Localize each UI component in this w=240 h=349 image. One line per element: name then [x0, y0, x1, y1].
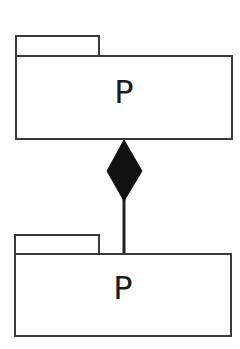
filled-diamond-icon	[107, 140, 142, 201]
bottom-package[interactable]: P	[14, 253, 232, 337]
bottom-package-name: P	[113, 272, 132, 304]
bottom-package-tab	[14, 234, 100, 255]
